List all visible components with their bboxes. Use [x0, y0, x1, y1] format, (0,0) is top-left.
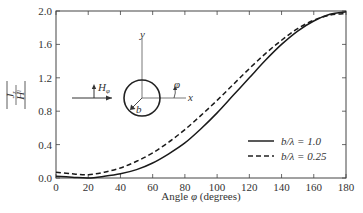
phi-label: φ: [174, 78, 180, 90]
radius-label: b: [136, 103, 142, 115]
x-tick-label: 60: [147, 181, 159, 193]
y-axis-title: Jz Hi: [4, 81, 26, 109]
inset-x-label: x: [187, 91, 193, 103]
legend: b/λ = 1.0 b/λ = 0.25: [248, 135, 327, 162]
x-axis-ticks: 020406080100120140160180: [53, 11, 355, 193]
y-tick-label: 0.0: [38, 172, 52, 184]
y-tick-label: 1.6: [38, 38, 52, 50]
x-axis-title: Angle φ (degrees): [161, 190, 241, 203]
legend-label-2: b/λ = 0.25: [281, 150, 327, 162]
x-tick-label: 120: [241, 181, 258, 193]
x-tick-label: 0: [53, 181, 59, 193]
inset-y-label: y: [139, 28, 145, 40]
y-tick-label: 1.2: [38, 72, 52, 84]
svg-text:Hi: Hi: [14, 90, 26, 101]
x-tick-label: 20: [83, 181, 95, 193]
x-tick-label: 160: [306, 181, 323, 193]
x-tick-label: 40: [115, 181, 127, 193]
y-tick-label: 0.4: [38, 139, 52, 151]
arrow-right-icon: [106, 96, 112, 101]
y-tick-label: 2.0: [38, 5, 52, 17]
y-tick-label: 0.8: [38, 105, 52, 117]
x-tick-label: 180: [338, 181, 355, 193]
x-tick-label: 140: [273, 181, 290, 193]
chart: 020406080100120140160180 0.00.40.81.21.6…: [0, 0, 363, 213]
legend-label-1: b/λ = 1.0: [281, 135, 321, 147]
arrow-up-icon: [92, 84, 96, 89]
inset-diagram: Hφ y x b φ: [72, 28, 193, 116]
h-phi-label: Hφ: [97, 81, 110, 95]
